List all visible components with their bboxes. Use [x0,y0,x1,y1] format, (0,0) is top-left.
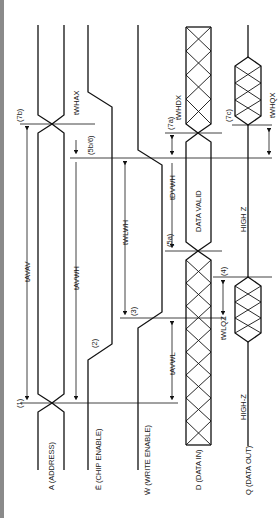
note-3: (3) [129,306,138,316]
note-4: (4) [219,266,228,276]
note-1: (1) [15,398,24,408]
param-twhax: tWHAX [72,90,81,115]
note-7c: (7c) [224,109,233,122]
label-high-z-lower: HIGH-Z [239,394,248,420]
label-chip-enable: Ē (CHIP ENABLE) [94,428,103,490]
label-data-in: D (DATA IN) [194,449,203,490]
data-out-waveform [235,25,261,446]
note-5b6: (5b/6) [86,135,95,155]
label-data-out: Q (DATA OUT) [244,445,253,495]
label-data-valid: DATA VALID [194,190,203,232]
param-tavwl: tAVWL [168,352,177,375]
note-7a: (7a) [166,116,175,130]
param-tavwh: tAVWH [72,266,81,290]
label-address: A (ADDRESS) [47,442,56,490]
note-5a: (5a) [165,233,174,247]
label-write-enable: W̄ (WRITE ENABLE) [143,424,152,495]
note-2: (2) [90,338,99,348]
param-twlwh: tWLWH [121,220,130,245]
param-twlqz: tWLQZ [219,316,228,340]
param-twhqx: tWHQX [268,93,277,118]
param-tavav: tAVAV [23,262,32,282]
label-high-z-upper: HIGH Z [239,206,248,232]
timing-diagram: A (ADDRESS) Ē (CHIP ENABLE) W̄ (WRITE EN… [0,0,279,518]
param-twhdx: tWHDX [174,95,183,120]
param-tdvwh: tDVWH [168,175,177,200]
data-in-waveform [186,27,211,445]
note-7b: (7b) [15,108,24,122]
